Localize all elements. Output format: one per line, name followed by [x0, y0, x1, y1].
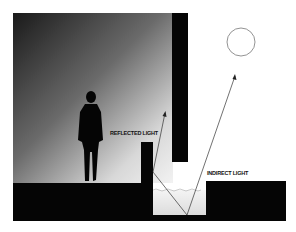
arrowhead-reflect — [163, 111, 167, 117]
reflected-light-label: REFLECTED LIGHT — [110, 130, 158, 136]
arrowhead-sun — [233, 74, 237, 80]
diagram-lines — [0, 0, 296, 232]
indirect-ray — [187, 76, 235, 215]
reflected-ray-down — [153, 172, 187, 215]
water-surface — [153, 189, 201, 191]
sun — [227, 28, 255, 56]
human-silhouette — [78, 91, 103, 181]
indirect-light-label: INDIRECT LIGHT — [207, 170, 248, 176]
reflected-ray-up — [153, 113, 165, 172]
